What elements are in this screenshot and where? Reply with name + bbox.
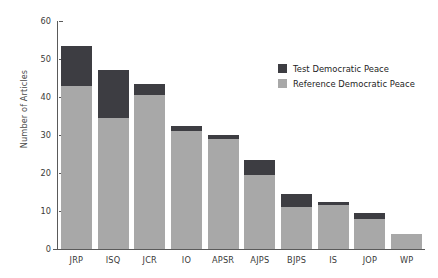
x-axis-label: JRP [61, 255, 92, 265]
legend-label: Reference Democratic Peace [293, 79, 415, 89]
y-tick-label: 0 [46, 244, 51, 254]
bar-segment-test[interactable] [171, 126, 202, 132]
bar-segment-test[interactable] [244, 160, 275, 175]
bar-segment-test[interactable] [354, 213, 385, 219]
bar-segment-test[interactable] [318, 202, 349, 206]
bar-segment-reference[interactable] [98, 118, 129, 249]
bar-segment-reference[interactable] [208, 139, 239, 249]
bar-segment-test[interactable] [134, 84, 165, 95]
x-axis-label: APSR [208, 255, 239, 265]
bar-group[interactable] [208, 135, 239, 249]
legend-item[interactable]: Test Democratic Peace [278, 62, 415, 75]
y-tick-label: 10 [41, 206, 51, 216]
bar-segment-test[interactable] [281, 194, 312, 207]
y-tick-label: 30 [41, 130, 51, 140]
x-axis-line [53, 249, 425, 250]
x-axis-label: IO [171, 255, 202, 265]
bar-group[interactable] [354, 213, 385, 249]
y-tick-label: 50 [41, 54, 51, 64]
bar-segment-reference[interactable] [318, 205, 349, 249]
plot-area: 0102030405060 JRPISQJCRIOAPSRAJPSBJPSISJ… [58, 21, 425, 249]
chart-legend: Test Democratic PeaceReference Democrati… [278, 62, 415, 92]
legend-label: Test Democratic Peace [293, 64, 389, 74]
x-axis-label: IS [318, 255, 349, 265]
bar-group[interactable] [98, 70, 129, 249]
bar-series-container [58, 21, 425, 249]
bar-group[interactable] [391, 234, 422, 249]
bar-segment-reference[interactable] [61, 86, 92, 249]
bar-segment-test[interactable] [61, 46, 92, 86]
legend-swatch [278, 64, 287, 73]
y-axis-title: Number of Articles [19, 39, 29, 179]
legend-item[interactable]: Reference Democratic Peace [278, 77, 415, 90]
x-axis-label: JOP [354, 255, 385, 265]
bar-group[interactable] [171, 126, 202, 250]
bar-segment-reference[interactable] [391, 234, 422, 249]
x-axis-label: ISQ [98, 255, 129, 265]
y-tick-label: 20 [41, 168, 51, 178]
x-axis-label: WP [391, 255, 422, 265]
x-axis-label: AJPS [244, 255, 275, 265]
bar-group[interactable] [244, 160, 275, 249]
bar-group[interactable] [318, 202, 349, 250]
x-axis-label: JCR [134, 255, 165, 265]
bar-chart: Number of Articles 0102030405060 JRPISQJ… [0, 0, 438, 278]
bar-segment-reference[interactable] [354, 219, 385, 249]
bar-segment-test[interactable] [98, 70, 129, 118]
y-tick-label: 60 [41, 16, 51, 26]
x-axis-label: BJPS [281, 255, 312, 265]
bar-segment-test[interactable] [208, 135, 239, 139]
bar-segment-reference[interactable] [134, 95, 165, 249]
y-tick-label: 40 [41, 92, 51, 102]
bar-segment-reference[interactable] [244, 175, 275, 249]
bar-group[interactable] [134, 84, 165, 249]
legend-swatch [278, 79, 287, 88]
bar-group[interactable] [281, 194, 312, 249]
bar-segment-reference[interactable] [281, 207, 312, 249]
bar-segment-reference[interactable] [171, 131, 202, 249]
bar-group[interactable] [61, 46, 92, 249]
